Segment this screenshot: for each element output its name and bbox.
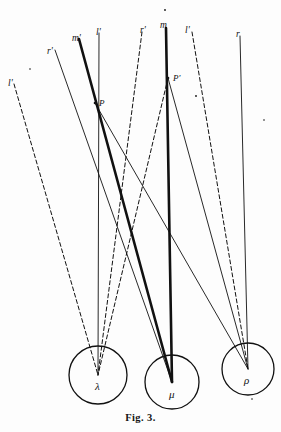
- stray-marks-group: [29, 9, 265, 400]
- ray-line-Pprime-to-rho-thin: [168, 78, 248, 369]
- ray-line-l-prime-left: [98, 33, 99, 375]
- figure-container: r'm'l'r'ml'rl' λμρ PP' Fig. 3.: [0, 0, 281, 432]
- vertex-dots-group: [94, 77, 170, 105]
- ray-line-r-prime-left: [55, 50, 172, 382]
- ray-label-3: r': [140, 26, 146, 36]
- stray-mark-1: [195, 95, 197, 97]
- ray-label-6: r: [236, 30, 240, 40]
- rays-group: [14, 28, 248, 382]
- vertex-dot-Pprime: [167, 77, 170, 80]
- ray-label-0: r': [47, 47, 53, 57]
- ray-diagram-canvas: [0, 0, 281, 432]
- body-label-lambda: λ: [95, 381, 100, 392]
- ray-label-4: m: [160, 21, 167, 31]
- stray-mark-0: [164, 9, 166, 11]
- figure-caption: Fig. 3.: [0, 412, 281, 423]
- body-label-rho: ρ: [244, 375, 249, 386]
- vertex-label-Pprime: P': [173, 74, 180, 83]
- ray-line-l-prime-far-left: [14, 84, 98, 375]
- ray-line-l-prime-mid: [192, 32, 248, 369]
- ray-line-m-prime-left: [79, 39, 172, 382]
- vertex-dot-P: [94, 102, 97, 105]
- stray-mark-2: [29, 68, 31, 70]
- ray-line-r-prime-mid: [98, 32, 142, 375]
- ray-label-5: l': [185, 26, 190, 36]
- ray-label-1: m': [72, 34, 81, 44]
- ray-label-7: l': [8, 79, 13, 89]
- body-label-mu: μ: [169, 389, 175, 400]
- ray-label-2: l': [96, 28, 101, 38]
- ray-line-r-right: [240, 36, 248, 369]
- stray-mark-3: [263, 119, 265, 121]
- vertex-label-P: P: [99, 99, 105, 108]
- stray-mark-4: [251, 398, 253, 400]
